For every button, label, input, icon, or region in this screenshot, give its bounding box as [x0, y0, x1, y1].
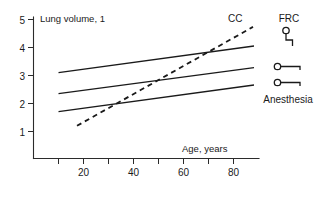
x-tick-label-40: 40	[128, 167, 140, 178]
x-tick-label-20: 20	[78, 167, 90, 178]
chart-figure: 5 4 3 2 1 20 40 60 80 Lung volume, 1 Age…	[0, 0, 323, 198]
frc-marker-hook	[286, 34, 293, 46]
axes-group	[34, 17, 260, 159]
x-tick-label-60: 60	[178, 167, 190, 178]
x-tick-label-80: 80	[228, 167, 240, 178]
y-axis-ticks	[28, 20, 34, 132]
anesthesia-marker-2-bar	[281, 83, 300, 87]
anesthesia-marker-2-circle	[274, 79, 280, 85]
x-axis-title: Age, years	[182, 143, 228, 154]
series-line-cc	[77, 27, 253, 126]
series-line-frc-awake	[59, 46, 255, 73]
y-axis-tick-labels: 5 4 3 2 1	[19, 15, 25, 138]
frc-marker-circle	[283, 27, 289, 33]
x-axis-ticks	[59, 159, 234, 165]
y-tick-label-4: 4	[19, 43, 25, 54]
legend-marker-anesthesia-1	[274, 63, 300, 70]
y-tick-label-1: 1	[19, 127, 25, 138]
series-line-anesthesia-lower	[59, 85, 255, 112]
y-axis-title: Lung volume, 1	[40, 13, 105, 24]
y-tick-label-5: 5	[19, 15, 25, 26]
legend-label-frc: FRC	[279, 13, 300, 24]
anesthesia-marker-1-bar	[281, 67, 300, 71]
legend-marker-frc	[283, 27, 293, 46]
y-tick-label-3: 3	[19, 71, 25, 82]
x-axis-tick-labels: 20 40 60 80	[78, 167, 240, 178]
y-tick-label-2: 2	[19, 99, 25, 110]
lung-volume-age-chart: 5 4 3 2 1 20 40 60 80 Lung volume, 1 Age…	[0, 0, 323, 198]
data-series-group	[59, 27, 255, 126]
series-label-cc: CC	[228, 13, 242, 24]
legend-group: FRC Anesthesia	[263, 13, 313, 105]
legend-label-anesthesia: Anesthesia	[263, 94, 313, 105]
anesthesia-marker-1-circle	[274, 63, 280, 69]
legend-marker-anesthesia-2	[274, 79, 300, 86]
